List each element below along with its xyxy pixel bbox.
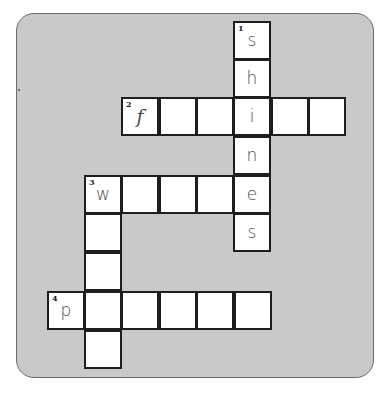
crossword-cell[interactable]: i: [233, 97, 271, 136]
crossword-cell[interactable]: 1s: [233, 21, 271, 60]
cell-letter: s: [235, 29, 269, 51]
crossword-cell[interactable]: [159, 291, 197, 330]
crossword-cell[interactable]: [308, 97, 346, 136]
crossword-cell[interactable]: [121, 175, 159, 214]
crossword-cell[interactable]: [84, 330, 122, 369]
crossword-cell[interactable]: [196, 291, 234, 330]
crossword-cell[interactable]: [84, 291, 122, 330]
crossword-cell[interactable]: [159, 175, 197, 214]
cell-letter: f: [123, 105, 157, 127]
crossword-cell[interactable]: [84, 213, 122, 252]
crossword-cell[interactable]: n: [233, 136, 271, 175]
crossword-cell[interactable]: e: [233, 175, 271, 214]
cell-letter: n: [235, 144, 269, 166]
crossword-cell[interactable]: [84, 252, 122, 291]
cell-letter: s: [235, 221, 269, 243]
crossword-cell[interactable]: h: [233, 59, 271, 98]
crossword-cell[interactable]: s: [233, 213, 271, 252]
cell-letter: p: [49, 299, 83, 321]
cell-letter: h: [235, 67, 269, 89]
crossword-cell[interactable]: [196, 97, 234, 136]
cell-letter: e: [235, 183, 269, 205]
crossword-cell[interactable]: [271, 97, 309, 136]
crossword-cell[interactable]: [234, 291, 272, 330]
crossword-cell[interactable]: [159, 97, 197, 136]
crossword-cell[interactable]: [121, 291, 159, 330]
cell-letter: w: [86, 183, 120, 205]
crossword-cell[interactable]: 2f: [121, 97, 159, 136]
crossword-cell[interactable]: [196, 175, 234, 214]
crossword-cell[interactable]: 4p: [47, 291, 85, 330]
crossword-cell[interactable]: 3w: [84, 175, 122, 214]
cell-letter: i: [235, 105, 269, 127]
paper-speck: [18, 89, 20, 91]
